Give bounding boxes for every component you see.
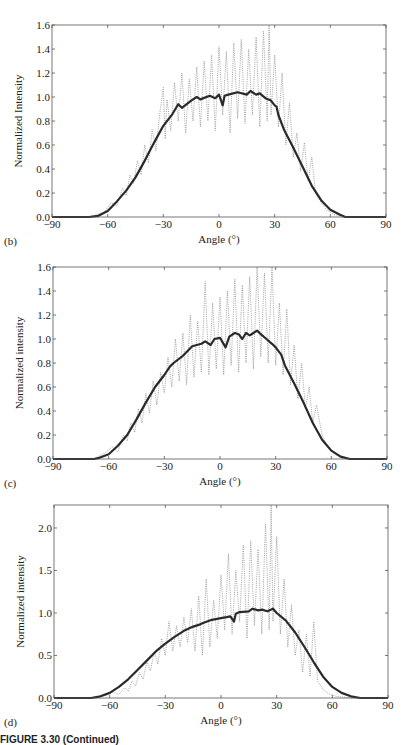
raw-data-line bbox=[95, 505, 355, 698]
x-tick-label: 90 bbox=[383, 699, 395, 711]
y-axis-title: Normalized intensity bbox=[14, 555, 26, 648]
x-tick-label: 0 bbox=[218, 699, 224, 711]
panel-label: (d) bbox=[4, 716, 17, 729]
y-tick-label: 1.0 bbox=[38, 607, 52, 619]
x-axis-title: Angle (°) bbox=[200, 714, 242, 727]
x-tick-label: −60 bbox=[101, 699, 119, 711]
x-tick-label: 60 bbox=[327, 699, 339, 711]
x-tick-label: −30 bbox=[157, 699, 175, 711]
y-tick-label: 1.5 bbox=[38, 564, 52, 576]
plot-frame bbox=[54, 505, 388, 698]
y-tick-label: 0.5 bbox=[38, 649, 52, 661]
figure-caption: FIGURE 3.30 (Continued) bbox=[0, 734, 119, 745]
y-tick-label: 2.0 bbox=[38, 522, 52, 534]
x-tick-label: −90 bbox=[45, 699, 63, 711]
x-tick-label: 30 bbox=[271, 699, 283, 711]
smoothed-data-line bbox=[54, 609, 388, 698]
